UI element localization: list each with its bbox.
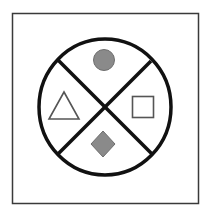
quadrant-shapes-diagram [0, 0, 208, 211]
right-square-shape [133, 97, 154, 118]
top-circle-shape [94, 50, 115, 71]
